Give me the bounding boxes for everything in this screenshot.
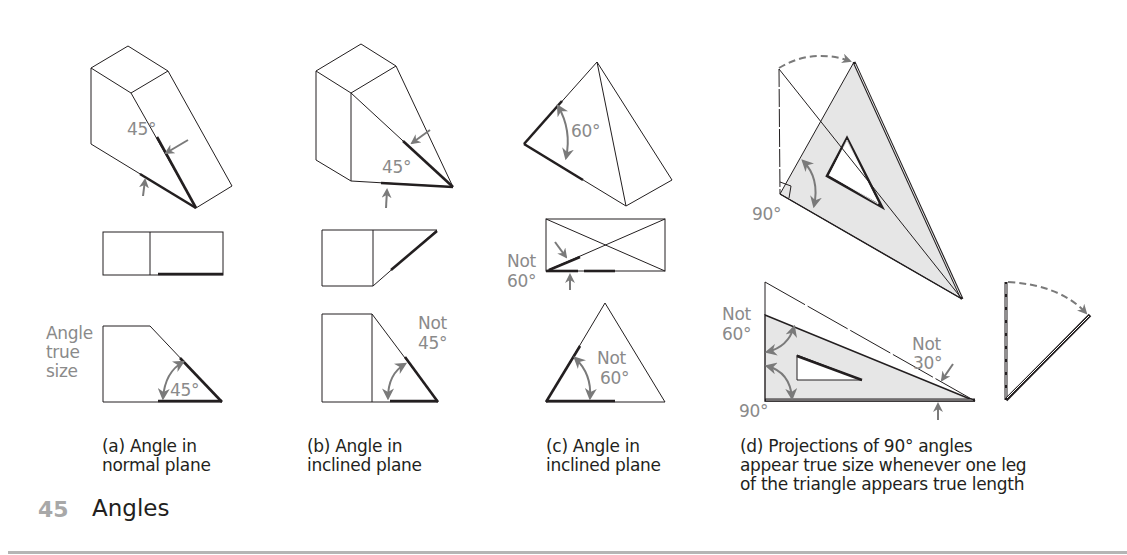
bottom-divider bbox=[8, 551, 1127, 554]
panel-d-lower-angle-label: 90° bbox=[739, 402, 768, 421]
panel-c-top-note-line2: 60° bbox=[507, 272, 536, 291]
caption-d-line1: (d) Projections of 90° angles bbox=[740, 436, 972, 456]
panel-c-front-note-line2: 60° bbox=[600, 369, 629, 388]
panel-b-top-view bbox=[322, 230, 437, 286]
panel-a-note-line1: Angle bbox=[46, 324, 93, 343]
caption-c-line1: (c) Angle in bbox=[546, 436, 640, 456]
panel-b-front-angle-arc bbox=[388, 364, 405, 398]
panel-a-note-line3: size bbox=[46, 362, 78, 381]
figure-number: 45 bbox=[38, 497, 69, 522]
panel-a-note-line2: true bbox=[46, 343, 80, 362]
panel-c-iso-angle-label: 60° bbox=[571, 122, 600, 141]
panel-b-note-line1: Not bbox=[418, 314, 447, 333]
panel-d-not30-line2: 30° bbox=[913, 354, 942, 373]
caption-c-line2: inclined plane bbox=[546, 455, 661, 475]
panel-a-iso-angle-label: 45° bbox=[127, 120, 156, 139]
panel-a-front-angle-label: 45° bbox=[170, 381, 199, 400]
panel-a-iso-angle-arrows bbox=[143, 140, 188, 196]
caption-b-line1: (b) Angle in bbox=[307, 436, 402, 456]
panel-b-note-line2: 45° bbox=[418, 334, 447, 353]
caption-b-line2: inclined plane bbox=[307, 455, 422, 475]
panel-a-isometric-block bbox=[91, 46, 232, 208]
caption-a-line1: (a) Angle in bbox=[102, 436, 197, 456]
panel-d-upper-angle-label: 90° bbox=[752, 205, 781, 224]
panel-a-front-view bbox=[103, 326, 222, 402]
panel-c-iso-angle-arc bbox=[558, 106, 568, 158]
panel-d-lower-triangle bbox=[765, 282, 975, 401]
caption-d-line2: appear true size whenever one leg bbox=[740, 455, 1026, 475]
panel-c-front-note-line1: Not bbox=[597, 349, 626, 368]
caption-a-line2: normal plane bbox=[102, 455, 211, 475]
panel-c-top-view bbox=[546, 219, 665, 271]
panel-d-side-view bbox=[1006, 282, 1090, 400]
caption-d-line3: of the triangle appears true length bbox=[740, 474, 1024, 494]
panel-c-front-angle-arc bbox=[575, 358, 590, 398]
panel-d-not60-line2: 60° bbox=[722, 325, 751, 344]
panel-d-not30-line1: Not bbox=[912, 335, 941, 354]
figure-title: Angles bbox=[92, 495, 169, 521]
panel-a-top-view bbox=[103, 232, 223, 275]
panel-d-not60-line1: Not bbox=[722, 305, 751, 324]
panel-b-iso-angle-label: 45° bbox=[382, 158, 411, 177]
panel-d-upper-triangle bbox=[779, 62, 962, 299]
panel-d-upper-rotation-arc bbox=[779, 56, 850, 68]
panel-c-top-note-line1: Not bbox=[507, 252, 536, 271]
